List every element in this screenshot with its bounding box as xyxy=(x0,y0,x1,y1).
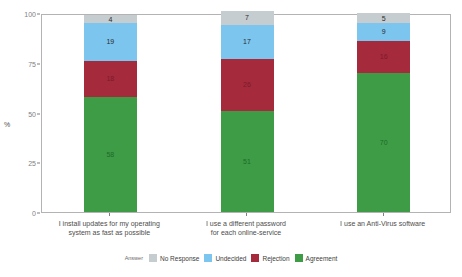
bar-value-label: 17 xyxy=(243,38,251,45)
bar-group-2[interactable]: 5126177 xyxy=(221,11,274,212)
x-tick-mark-1 xyxy=(109,213,110,216)
legend-label: Undecided xyxy=(215,255,246,262)
legend-swatch-icon xyxy=(204,254,212,262)
bar-segment[interactable]: 9 xyxy=(357,23,410,41)
bar-value-label: 4 xyxy=(108,16,112,23)
legend-label: Rejection xyxy=(262,255,289,262)
bar-value-label: 19 xyxy=(106,38,114,45)
x-axis-label-line: I install updates for my operating xyxy=(34,219,184,228)
bar-value-label: 51 xyxy=(243,158,251,165)
x-tick-mark-2 xyxy=(246,213,247,216)
legend-title: Answer xyxy=(125,255,143,261)
y-tick-label-100: 100 xyxy=(14,11,36,18)
bar-segment[interactable]: 17 xyxy=(221,25,274,59)
legend-item-agreement[interactable]: Agreement xyxy=(295,254,338,262)
y-tick-mark-0 xyxy=(37,213,40,214)
plot-panel: 58181945126177701695 xyxy=(41,14,451,213)
stacked-bar-chart: % 0255075100 58181945126177701695 Answer… xyxy=(0,0,462,277)
legend-swatch-icon xyxy=(149,254,157,262)
x-axis-label-3: I use an Anti-Virus software xyxy=(308,219,458,228)
bar-segment[interactable]: 26 xyxy=(221,59,274,111)
bar-value-label: 9 xyxy=(382,28,386,35)
x-axis-label-line: I use an Anti-Virus software xyxy=(308,219,458,228)
bar-segment[interactable]: 18 xyxy=(84,61,137,97)
bar-segment[interactable]: 7 xyxy=(221,11,274,25)
y-tick-label-50: 50 xyxy=(14,110,36,117)
y-tick-mark-25 xyxy=(37,163,40,164)
y-tick-label-0: 0 xyxy=(14,210,36,217)
legend-item-undecided[interactable]: Undecided xyxy=(204,254,246,262)
y-tick-label-25: 25 xyxy=(14,160,36,167)
y-axis-title: % xyxy=(4,121,10,128)
x-axis-label-line: system as fast as possible xyxy=(34,228,184,237)
bar-value-label: 70 xyxy=(380,139,388,146)
bar-segment[interactable]: 16 xyxy=(357,41,410,73)
legend-swatch-icon xyxy=(295,254,303,262)
y-tick-mark-50 xyxy=(37,113,40,114)
bar-group-3[interactable]: 701695 xyxy=(357,13,410,212)
bar-group-1[interactable]: 5818194 xyxy=(84,15,137,212)
legend-item-rejection[interactable]: Rejection xyxy=(251,254,289,262)
bar-value-label: 18 xyxy=(106,75,114,82)
bar-segment[interactable]: 19 xyxy=(84,23,137,61)
legend-label: No Response xyxy=(160,255,199,262)
legend-item-no-response[interactable]: No Response xyxy=(149,254,199,262)
bar-value-label: 16 xyxy=(380,53,388,60)
bar-segment[interactable]: 51 xyxy=(221,111,274,212)
legend-swatch-icon xyxy=(251,254,259,262)
y-axis: 0255075100 xyxy=(14,0,36,277)
y-tick-mark-75 xyxy=(37,63,40,64)
bar-segment[interactable]: 5 xyxy=(357,13,410,23)
x-axis-label-line: for each online-service xyxy=(171,228,321,237)
y-tick-label-75: 75 xyxy=(14,60,36,67)
bar-segment[interactable]: 4 xyxy=(84,15,137,23)
bar-segment[interactable]: 70 xyxy=(357,73,410,212)
bar-value-label: 26 xyxy=(243,81,251,88)
legend-label: Agreement xyxy=(306,255,338,262)
bar-segment[interactable]: 58 xyxy=(84,97,137,212)
legend: Answer No ResponseUndecidedRejectionAgre… xyxy=(0,254,462,262)
bar-value-label: 5 xyxy=(382,15,386,22)
x-tick-mark-3 xyxy=(383,213,384,216)
x-axis-label-line: I use a different password xyxy=(171,219,321,228)
y-tick-mark-100 xyxy=(37,14,40,15)
x-axis-label-1: I install updates for my operatingsystem… xyxy=(34,219,184,237)
bar-value-label: 58 xyxy=(106,151,114,158)
x-axis-label-2: I use a different passwordfor each onlin… xyxy=(171,219,321,237)
bar-value-label: 7 xyxy=(245,14,249,21)
